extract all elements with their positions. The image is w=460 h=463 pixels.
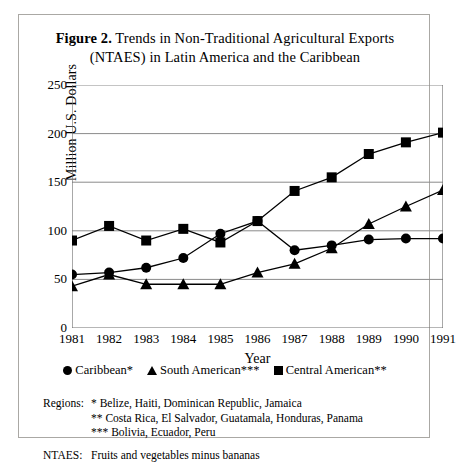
tick-marks bbox=[72, 85, 443, 328]
marker-circle bbox=[141, 263, 151, 273]
y-tick-label: 250 bbox=[27, 78, 67, 91]
legend-square-icon bbox=[274, 366, 283, 375]
legend-triangle-icon bbox=[147, 366, 157, 375]
gridlines bbox=[72, 85, 443, 279]
marker-square bbox=[438, 128, 443, 138]
series-line-circle bbox=[72, 221, 443, 274]
y-tick-label: 50 bbox=[27, 272, 67, 285]
legend-item-label: Caribbean* bbox=[75, 363, 133, 378]
data-series-layer bbox=[72, 128, 443, 292]
regions-note: Regions: * Belize, Haiti, Dominican Repu… bbox=[43, 396, 415, 440]
legend-item-circle: Caribbean* bbox=[63, 363, 133, 378]
marker-square bbox=[290, 186, 300, 196]
marker-square bbox=[178, 224, 188, 234]
marker-triangle bbox=[289, 258, 301, 269]
marker-square bbox=[364, 149, 374, 159]
marker-square bbox=[72, 236, 77, 246]
legend-item-label: Central American** bbox=[286, 363, 387, 378]
figure-title-line2: (NTAES) in Latin America and the Caribbe… bbox=[19, 48, 431, 67]
marker-circle bbox=[290, 245, 300, 255]
regions-note-line-3: *** Bolivia, Ecuador, Peru bbox=[91, 425, 415, 440]
figure-notes: Regions: * Belize, Haiti, Dominican Repu… bbox=[43, 396, 415, 463]
regions-note-line-2: ** Costa Rica, El Salvador, Guatamala, H… bbox=[91, 411, 415, 426]
ntaes-note-key: NTAES: bbox=[43, 448, 91, 463]
marker-triangle bbox=[437, 184, 443, 195]
x-tick-label: 1991 bbox=[420, 332, 460, 346]
axis-lines bbox=[72, 85, 443, 328]
marker-square bbox=[253, 216, 263, 226]
ntaes-note-value: Fruits and vegetables minus bananas bbox=[91, 448, 415, 463]
chart-svg bbox=[72, 85, 443, 328]
marker-circle bbox=[215, 229, 225, 239]
marker-square bbox=[141, 236, 151, 246]
figure-container: Figure 2. Trends in Non-Traditional Agri… bbox=[18, 14, 430, 438]
chart-legend: Caribbean*South American***Central Ameri… bbox=[19, 363, 431, 378]
marker-circle bbox=[401, 234, 411, 244]
figure-title-line1: Trends in Non-Traditional Agricultural E… bbox=[112, 30, 394, 46]
legend-item-triangle: South American*** bbox=[147, 363, 260, 378]
marker-circle bbox=[72, 270, 77, 280]
legend-item-label: South American*** bbox=[160, 363, 260, 378]
legend-circle-icon bbox=[63, 366, 72, 375]
y-tick-label: 200 bbox=[27, 127, 67, 140]
figure-title: Figure 2. Trends in Non-Traditional Agri… bbox=[19, 29, 431, 67]
marker-square bbox=[104, 221, 114, 231]
marker-square bbox=[327, 172, 337, 182]
ntaes-note: NTAES: Fruits and vegetables minus banan… bbox=[43, 448, 415, 463]
chart-plot-area: Million U.S. Dollars Year 05010015020025… bbox=[72, 85, 443, 328]
marker-circle bbox=[364, 235, 374, 245]
y-tick-label: 150 bbox=[27, 175, 67, 188]
marker-square bbox=[215, 237, 225, 247]
marker-triangle bbox=[400, 201, 412, 212]
figure-number: Figure 2. bbox=[56, 30, 112, 46]
marker-circle bbox=[438, 234, 443, 244]
marker-square bbox=[401, 137, 411, 147]
marker-circle bbox=[178, 253, 188, 263]
regions-note-values: * Belize, Haiti, Dominican Republic, Jam… bbox=[91, 396, 415, 440]
legend-item-square: Central American** bbox=[274, 363, 387, 378]
regions-note-key: Regions: bbox=[43, 396, 91, 440]
marker-triangle bbox=[363, 218, 375, 229]
regions-note-line-1: * Belize, Haiti, Dominican Republic, Jam… bbox=[91, 396, 415, 411]
y-tick-label: 100 bbox=[27, 224, 67, 237]
